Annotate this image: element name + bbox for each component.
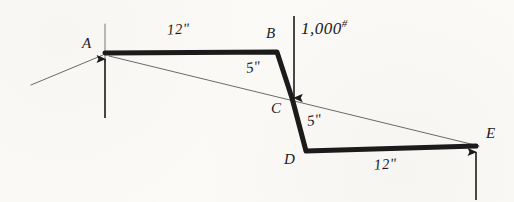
node-label-b: B	[266, 26, 275, 41]
support-reaction-arrows	[105, 59, 476, 200]
dimension-label-lower-web: 5"	[306, 112, 323, 129]
dimension-label-upper-web: 5"	[245, 59, 262, 76]
node-label-d: D	[284, 152, 295, 167]
dimension-label-bottom-span: 12"	[374, 156, 398, 173]
diagram-canvas: A B C D E 12" 5" 5" 12" 1,000#	[0, 0, 514, 202]
applied-load-value: 1,000	[301, 19, 342, 38]
construction-line-a-lower-left	[31, 55, 103, 85]
node-label-e: E	[486, 126, 495, 141]
node-label-c: C	[271, 101, 281, 116]
construction-lines	[31, 24, 479, 146]
applied-load-unit: #	[342, 17, 348, 29]
dimension-label-top-span: 12"	[167, 21, 191, 38]
applied-load-label: 1,000#	[301, 18, 348, 37]
beam-members	[105, 52, 476, 151]
bent-beam-member	[105, 52, 476, 151]
beam-diagram-svg	[0, 0, 514, 202]
node-label-a: A	[82, 36, 91, 51]
